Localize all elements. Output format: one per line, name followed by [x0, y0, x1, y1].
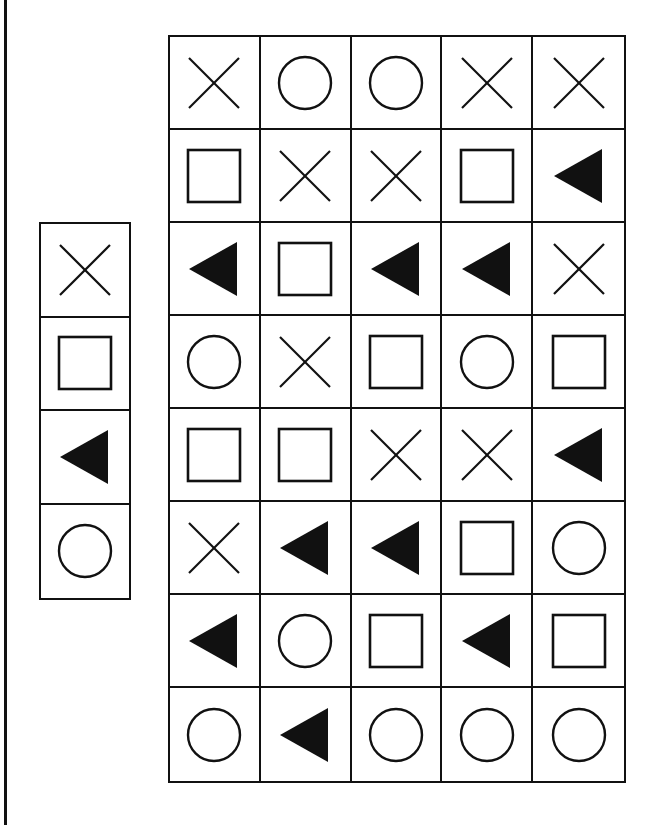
square-icon — [549, 332, 609, 392]
circle-icon — [457, 705, 517, 765]
filled-left-triangle-icon — [366, 518, 426, 578]
grid-cell-r4-c2 — [261, 316, 352, 409]
circle-icon — [55, 521, 115, 581]
grid-cell-r3-c5 — [533, 223, 624, 316]
square-icon — [275, 425, 335, 485]
circle-icon — [184, 705, 244, 765]
symbol-grid — [168, 35, 626, 783]
x-mark-icon — [366, 425, 426, 485]
grid-cell-r5-c5 — [533, 409, 624, 502]
grid-cell-r6-c1 — [170, 502, 261, 595]
circle-icon — [549, 518, 609, 578]
grid-cell-r5-c4 — [442, 409, 533, 502]
grid-cell-r4-c5 — [533, 316, 624, 409]
grid-cell-r8-c4 — [442, 688, 533, 781]
x-mark-icon — [55, 240, 115, 300]
square-icon — [457, 146, 517, 206]
filled-left-triangle-icon — [184, 611, 244, 671]
circle-icon — [366, 53, 426, 113]
left-edge-line — [4, 0, 7, 825]
grid-cell-r8-c5 — [533, 688, 624, 781]
legend-cell-square — [41, 318, 129, 412]
grid-cell-r5-c3 — [352, 409, 443, 502]
grid-cell-r6-c4 — [442, 502, 533, 595]
grid-cell-r6-c3 — [352, 502, 443, 595]
x-mark-icon — [457, 425, 517, 485]
filled-left-triangle-icon — [457, 611, 517, 671]
grid-cell-r1-c5 — [533, 37, 624, 130]
square-icon — [366, 611, 426, 671]
symbol-legend — [39, 222, 131, 600]
grid-cell-r7-c4 — [442, 595, 533, 688]
x-mark-icon — [549, 53, 609, 113]
circle-icon — [275, 611, 335, 671]
square-icon — [366, 332, 426, 392]
x-mark-icon — [184, 518, 244, 578]
grid-cell-r1-c4 — [442, 37, 533, 130]
grid-cell-r8-c2 — [261, 688, 352, 781]
grid-cell-r7-c3 — [352, 595, 443, 688]
circle-icon — [184, 332, 244, 392]
grid-cell-r1-c1 — [170, 37, 261, 130]
circle-icon — [366, 705, 426, 765]
x-mark-icon — [366, 146, 426, 206]
filled-left-triangle-icon — [366, 239, 426, 299]
filled-left-triangle-icon — [275, 705, 335, 765]
grid-cell-r1-c3 — [352, 37, 443, 130]
grid-cell-r6-c2 — [261, 502, 352, 595]
grid-cell-r3-c1 — [170, 223, 261, 316]
grid-cell-r5-c1 — [170, 409, 261, 502]
grid-cell-r6-c5 — [533, 502, 624, 595]
grid-cell-r3-c2 — [261, 223, 352, 316]
grid-cell-r8-c1 — [170, 688, 261, 781]
grid-cell-r4-c4 — [442, 316, 533, 409]
x-mark-icon — [275, 332, 335, 392]
filled-left-triangle-icon — [549, 146, 609, 206]
grid-cell-r4-c3 — [352, 316, 443, 409]
grid-cell-r3-c4 — [442, 223, 533, 316]
legend-cell-circle — [41, 505, 129, 599]
filled-left-triangle-icon — [457, 239, 517, 299]
grid-cell-r2-c4 — [442, 130, 533, 223]
grid-cell-r8-c3 — [352, 688, 443, 781]
grid-cell-r7-c1 — [170, 595, 261, 688]
square-icon — [549, 611, 609, 671]
grid-cell-r2-c5 — [533, 130, 624, 223]
square-icon — [55, 333, 115, 393]
grid-cell-r5-c2 — [261, 409, 352, 502]
filled-left-triangle-icon — [549, 425, 609, 485]
circle-icon — [275, 53, 335, 113]
grid-cell-r3-c3 — [352, 223, 443, 316]
grid-cell-r1-c2 — [261, 37, 352, 130]
square-icon — [184, 425, 244, 485]
legend-cell-x — [41, 224, 129, 318]
circle-icon — [457, 332, 517, 392]
x-mark-icon — [184, 53, 244, 113]
square-icon — [457, 518, 517, 578]
x-mark-icon — [275, 146, 335, 206]
legend-cell-triangle — [41, 411, 129, 505]
filled-left-triangle-icon — [275, 518, 335, 578]
grid-cell-r2-c3 — [352, 130, 443, 223]
filled-left-triangle-icon — [55, 427, 115, 487]
grid-cell-r4-c1 — [170, 316, 261, 409]
grid-cell-r2-c2 — [261, 130, 352, 223]
grid-cell-r7-c2 — [261, 595, 352, 688]
square-icon — [275, 239, 335, 299]
x-mark-icon — [457, 53, 517, 113]
grid-cell-r7-c5 — [533, 595, 624, 688]
grid-cell-r2-c1 — [170, 130, 261, 223]
filled-left-triangle-icon — [184, 239, 244, 299]
square-icon — [184, 146, 244, 206]
x-mark-icon — [549, 239, 609, 299]
circle-icon — [549, 705, 609, 765]
